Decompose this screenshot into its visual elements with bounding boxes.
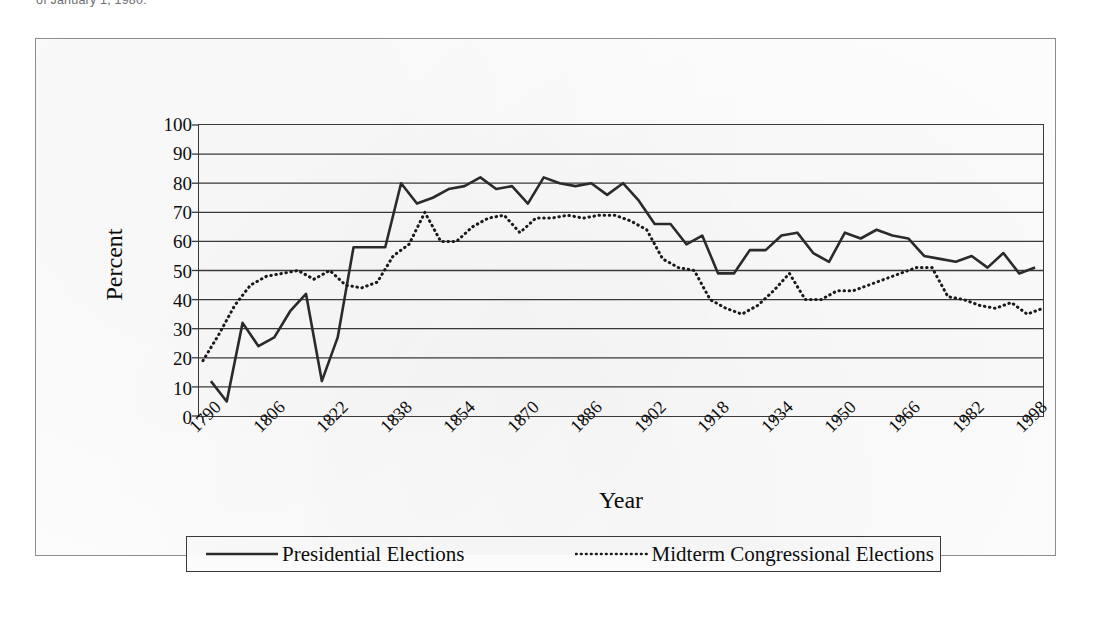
- y-tick-label: 50: [146, 261, 192, 280]
- cut-off-caption: of January 1, 1980.: [36, 0, 456, 9]
- x-axis-tick-labels: 1790180618221838185418701886190219181934…: [198, 417, 1044, 479]
- y-tick-label: 60: [146, 232, 192, 251]
- y-tick-label: 30: [146, 320, 192, 339]
- series-line-presidential: [211, 177, 1035, 401]
- legend-item-midterm: Midterm Congressional Elections: [575, 542, 934, 567]
- legend-label-presidential: Presidential Elections: [282, 542, 465, 567]
- y-axis-title: Percent: [101, 175, 128, 355]
- legend-label-midterm: Midterm Congressional Elections: [652, 542, 934, 567]
- y-axis-tick-labels: 0102030405060708090100: [136, 124, 192, 417]
- y-tick-label: 10: [146, 378, 192, 397]
- y-tick-label: 0: [146, 408, 192, 427]
- x-axis-title: Year: [198, 487, 1044, 514]
- y-tick-label: 70: [146, 202, 192, 221]
- data-series-layer: [199, 125, 1043, 416]
- y-tick-label: 100: [146, 115, 192, 134]
- legend: Presidential Elections Midterm Congressi…: [186, 536, 941, 572]
- figure-frame: Percent 0102030405060708090100 179018061…: [35, 38, 1056, 556]
- legend-item-presidential: Presidential Elections: [205, 542, 465, 567]
- y-tick-label: 90: [146, 144, 192, 163]
- y-tick-label: 20: [146, 349, 192, 368]
- figure-page: of January 1, 1980. Percent 010203040506…: [0, 0, 1100, 622]
- legend-line-solid-icon: [205, 548, 279, 560]
- plot-area: [198, 124, 1044, 417]
- y-tick-label: 40: [146, 290, 192, 309]
- y-tick-label: 80: [146, 173, 192, 192]
- series-line-midterm: [203, 212, 1043, 360]
- legend-line-dotted-icon: [575, 548, 649, 560]
